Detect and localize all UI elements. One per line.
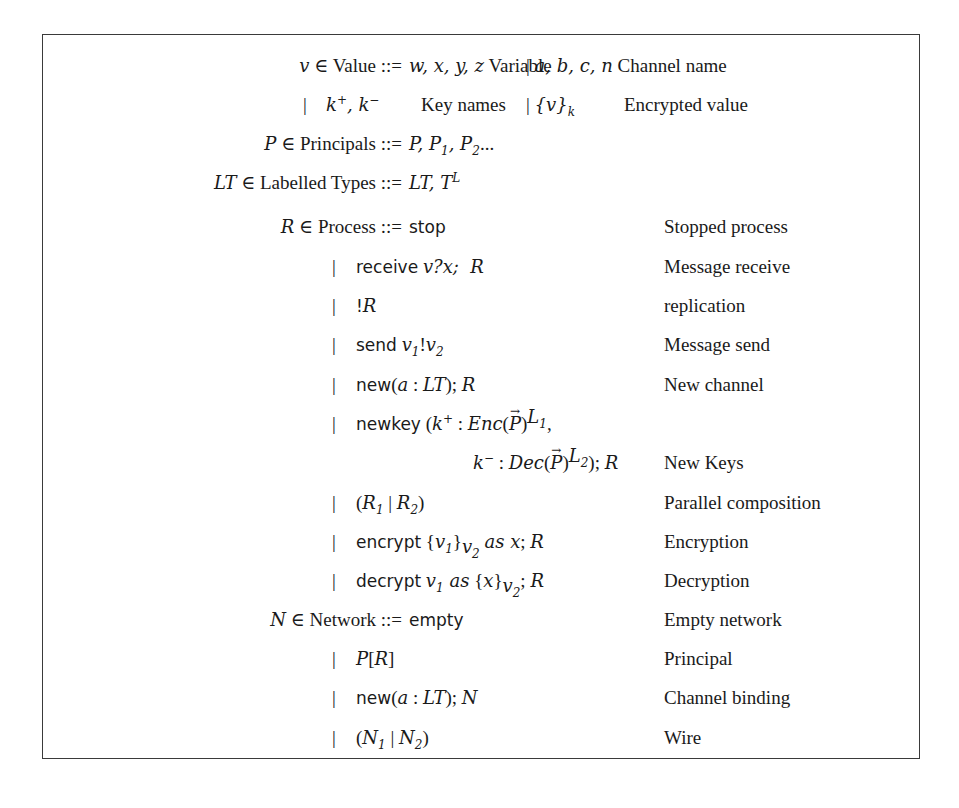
grammar-row-process-send: | send v1!v2 Message send (0, 332, 959, 358)
alt-bar: | (303, 92, 307, 118)
grammar-row-process-newkey: | newkey (k+ : Enc(P)L1, (0, 411, 959, 437)
grammar-row-process-new: | new(a : LT); R New channel (0, 372, 959, 398)
alt-bar: | (332, 332, 336, 358)
process-term-decrypt: decrypt v1 as {x}v2; R (356, 568, 544, 594)
value-alt-encrypted: | {v}k (526, 92, 575, 118)
process-term-stop: stop (409, 214, 446, 240)
process-desc-newkey: New Keys (664, 450, 744, 476)
alt-bar: | (332, 646, 336, 672)
grammar-row-process-parallel: | (R1 | R2) Parallel composition (0, 490, 959, 516)
alt-bar: | (332, 529, 336, 555)
process-lhs: R ∈ Process ::= (281, 214, 402, 240)
alt-bar: | (332, 293, 336, 319)
process-desc-new: New channel (664, 372, 764, 398)
process-term-newkey-1: newkey (k+ : Enc(P)L1, (356, 411, 552, 437)
grammar-row-process-newkey-2: k− : Dec(P)L2); R New Keys (0, 450, 959, 476)
process-term-new: new(a : LT); R (356, 372, 475, 398)
grammar-row-value: v ∈ Value ::= w, x, y, z Variable | a, b… (0, 53, 959, 79)
grammar-row-process-receive: | receive v?x; R Message receive (0, 254, 959, 280)
labelled-types-rhs: LT, TL (409, 170, 460, 196)
network-desc-wire: Wire (664, 725, 701, 751)
process-desc-encrypt: Encryption (664, 529, 748, 555)
principals-lhs: P ∈ Principals ::= (264, 131, 402, 157)
grammar-row-network-empty: N ∈ Network ::= empty Empty network (0, 607, 959, 633)
value-alt-encrypted-desc: Encrypted value (624, 92, 748, 118)
grammar-row-network-binding: | new(a : LT); N Channel binding (0, 685, 959, 711)
labelled-types-lhs: LT ∈ Labelled Types ::= (214, 170, 402, 196)
process-term-encrypt: encrypt {v1}v2 as x; R (356, 529, 544, 555)
grammar-row-process-replication: | !R replication (0, 293, 959, 319)
network-lhs: N ∈ Network ::= (270, 607, 402, 633)
value-lhs: v ∈ Value ::= (299, 53, 402, 79)
alt-bar: | (332, 685, 336, 711)
grammar-row-process-encrypt: | encrypt {v1}v2 as x; R Encryption (0, 529, 959, 555)
grammar-row-principals: P ∈ Principals ::= P, P1, P2... (0, 131, 959, 157)
process-term-send: send v1!v2 (356, 332, 444, 358)
grammar-row-process-stop: R ∈ Process ::= stop Stopped process (0, 214, 959, 240)
network-term-principal: P[R] (356, 646, 394, 672)
network-desc-empty: Empty network (664, 607, 782, 633)
grammar-row-labelled-types: LT ∈ Labelled Types ::= LT, TL (0, 170, 959, 196)
process-term-receive: receive v?x; R (356, 254, 484, 280)
value-alt-keys: k+, k− (326, 92, 379, 118)
value-alt-keys-desc: Key names (421, 92, 506, 118)
network-desc-binding: Channel binding (664, 685, 790, 711)
alt-bar: | (332, 725, 336, 751)
network-term-wire: (N1 | N2) (356, 725, 429, 751)
value-alt-channel: | a, b, c, n Channel name (526, 53, 727, 79)
grammar-row-process-decrypt: | decrypt v1 as {x}v2; R Decryption (0, 568, 959, 594)
alt-bar: | (332, 411, 336, 437)
process-desc-receive: Message receive (664, 254, 790, 280)
network-desc-principal: Principal (664, 646, 733, 672)
principals-rhs: P, P1, P2... (409, 131, 494, 157)
process-desc-decrypt: Decryption (664, 568, 749, 594)
network-term-binding: new(a : LT); N (356, 685, 478, 711)
grammar-row-network-wire: | (N1 | N2) Wire (0, 725, 959, 751)
process-desc-send: Message send (664, 332, 770, 358)
alt-bar: | (332, 254, 336, 280)
process-term-newkey-2: k− : Dec(P)L2); R (473, 450, 618, 476)
process-desc-parallel: Parallel composition (664, 490, 821, 516)
grammar-row-network-principal: | P[R] Principal (0, 646, 959, 672)
grammar-row-value-2: | k+, k− Key names | {v}k Encrypted valu… (0, 92, 959, 118)
alt-bar: | (332, 568, 336, 594)
network-term-empty: empty (409, 607, 464, 633)
alt-bar: | (332, 372, 336, 398)
process-term-replication: !R (356, 293, 376, 319)
process-desc-stop: Stopped process (664, 214, 788, 240)
process-desc-replication: replication (664, 293, 745, 319)
alt-bar: | (332, 490, 336, 516)
process-term-parallel: (R1 | R2) (356, 490, 424, 516)
